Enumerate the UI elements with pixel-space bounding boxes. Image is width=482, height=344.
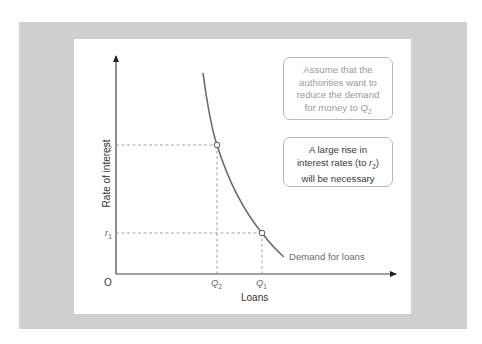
curve-label: Demand for loans [289, 251, 365, 262]
annotation-line: authorities want to [284, 77, 392, 90]
annotation-line: Assume that the [284, 64, 392, 77]
annotation-line: A large rise in [284, 144, 392, 157]
annotation-line: interest rates (to r2) [284, 157, 392, 174]
annotation-line: will be necessary [284, 173, 392, 186]
tick-r1: r1 [105, 227, 112, 240]
guide-lines [116, 145, 262, 274]
annotation-line: reduce the demand [284, 89, 392, 102]
point-q1-r1 [259, 230, 265, 236]
annotation-rise: A large rise in interest rates (to r2) w… [283, 137, 393, 187]
tick-r2: r2 [105, 139, 112, 152]
demand-curve [203, 73, 284, 257]
annotation-assume: Assume that the authorities want to redu… [283, 57, 393, 120]
x-axis-label: Loans [241, 292, 268, 303]
annotation-line: for money to Q2 [284, 102, 392, 119]
tick-q1: Q1 [256, 277, 267, 290]
y-axis-label: Rate of interest [101, 114, 112, 234]
point-q2-r2 [214, 142, 220, 148]
tick-q2: Q2 [211, 277, 222, 290]
origin-label: O [104, 277, 112, 288]
